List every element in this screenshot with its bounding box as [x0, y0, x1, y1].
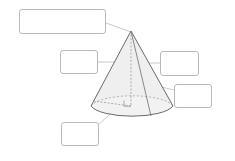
- label-box-lateral-surface[interactable]: [174, 84, 212, 108]
- worksheet-canvas: [0, 0, 235, 161]
- label-box-height[interactable]: [60, 50, 98, 74]
- label-box-vertex[interactable]: [19, 9, 106, 34]
- leader-line-vertex: [106, 23, 131, 32]
- label-box-base[interactable]: [61, 122, 99, 146]
- label-box-slant-height[interactable]: [160, 51, 199, 76]
